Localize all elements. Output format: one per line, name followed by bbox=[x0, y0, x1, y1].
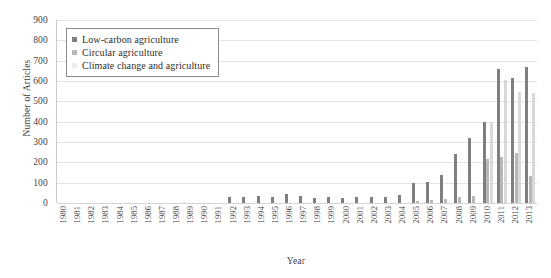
bar-group bbox=[325, 20, 339, 203]
bar-group bbox=[241, 20, 255, 203]
y-tick-label: 800 bbox=[0, 35, 48, 45]
x-tick: 1991 bbox=[211, 204, 225, 254]
x-tick-label: 1987 bbox=[157, 206, 167, 223]
bar bbox=[242, 197, 245, 203]
legend-item-label: Low-carbon agriculture bbox=[82, 34, 179, 45]
bar-group bbox=[495, 20, 509, 203]
x-tick: 1983 bbox=[98, 204, 112, 254]
bar-group bbox=[269, 20, 283, 203]
bar-group bbox=[340, 20, 354, 203]
x-tick-label: 1993 bbox=[242, 206, 252, 223]
bar-chart-figure: Number of Articles 900800700600500400300… bbox=[0, 0, 551, 278]
x-tick-label: 1989 bbox=[185, 206, 195, 223]
bar bbox=[532, 93, 535, 203]
x-tick-label: 1999 bbox=[326, 206, 336, 223]
x-tick: 1997 bbox=[296, 204, 310, 254]
x-tick: 1988 bbox=[169, 204, 183, 254]
x-tick-label: 1986 bbox=[143, 206, 153, 223]
bar bbox=[518, 92, 521, 203]
x-tick: 1996 bbox=[282, 204, 296, 254]
bar-group bbox=[424, 20, 438, 203]
x-tick-label: 1997 bbox=[298, 206, 308, 223]
x-tick: 2003 bbox=[381, 204, 395, 254]
x-tick: 1989 bbox=[183, 204, 197, 254]
bar bbox=[490, 122, 493, 203]
bar bbox=[515, 153, 518, 203]
x-tick: 1998 bbox=[310, 204, 324, 254]
bar-group bbox=[283, 20, 297, 203]
bar bbox=[299, 196, 302, 203]
bar-group bbox=[354, 20, 368, 203]
bar bbox=[504, 80, 507, 203]
x-tick-label: 1992 bbox=[228, 206, 238, 223]
x-tick: 2013 bbox=[522, 204, 536, 254]
x-tick: 1999 bbox=[324, 204, 338, 254]
bar bbox=[313, 198, 316, 203]
x-tick-label: 2007 bbox=[439, 206, 449, 223]
bar bbox=[384, 197, 387, 203]
x-tick-label: 1985 bbox=[129, 206, 139, 223]
x-tick: 2004 bbox=[395, 204, 409, 254]
bar bbox=[327, 197, 330, 203]
x-tick-label: 2002 bbox=[369, 206, 379, 223]
x-tick: 2006 bbox=[423, 204, 437, 254]
x-tick-label: 1984 bbox=[115, 206, 125, 223]
x-tick: 2009 bbox=[466, 204, 480, 254]
x-tick-label: 2011 bbox=[496, 206, 506, 223]
x-tick: 2002 bbox=[367, 204, 381, 254]
bar-group bbox=[368, 20, 382, 203]
bar bbox=[257, 196, 260, 203]
legend-item[interactable]: Circular agriculture bbox=[72, 46, 210, 59]
legend-item-label: Climate change and agriculture bbox=[82, 60, 210, 71]
bar bbox=[529, 176, 532, 203]
x-tick-label: 2005 bbox=[411, 206, 421, 223]
legend-swatch-icon bbox=[72, 37, 77, 42]
x-tick: 1980 bbox=[56, 204, 70, 254]
x-tick: 2005 bbox=[409, 204, 423, 254]
bar bbox=[444, 199, 447, 203]
bar bbox=[511, 78, 514, 203]
bar-group bbox=[438, 20, 452, 203]
legend-item[interactable]: Low-carbon agriculture bbox=[72, 33, 210, 46]
bar-group bbox=[382, 20, 396, 203]
x-tick-label: 1990 bbox=[199, 206, 209, 223]
x-tick-label: 1991 bbox=[213, 206, 223, 223]
legend-item[interactable]: Climate change and agriculture bbox=[72, 59, 210, 72]
x-tick: 2007 bbox=[437, 204, 451, 254]
bar bbox=[416, 201, 419, 203]
bar bbox=[271, 197, 274, 203]
x-tick-label: 1998 bbox=[312, 206, 322, 223]
chart-legend: Low-carbon agricultureCircular agricultu… bbox=[66, 28, 219, 77]
bar-group bbox=[523, 20, 537, 203]
bar bbox=[483, 122, 486, 203]
x-tick-label: 2000 bbox=[341, 206, 351, 223]
y-tick-label: 400 bbox=[0, 117, 48, 127]
bar bbox=[412, 183, 415, 203]
legend-swatch-icon bbox=[72, 50, 77, 55]
bar bbox=[355, 197, 358, 203]
x-tick-label: 2008 bbox=[454, 206, 464, 223]
x-tick: 1990 bbox=[197, 204, 211, 254]
y-tick-label: 500 bbox=[0, 96, 48, 106]
x-tick-label: 2013 bbox=[524, 206, 534, 223]
y-tick-label: 300 bbox=[0, 137, 48, 147]
bar bbox=[497, 69, 500, 203]
bar bbox=[341, 198, 344, 203]
x-tick-label: 2004 bbox=[397, 206, 407, 223]
x-tick-label: 2001 bbox=[355, 206, 365, 223]
y-tick-label: 100 bbox=[0, 178, 48, 188]
legend-swatch-icon bbox=[72, 63, 77, 68]
x-tick-label: 1983 bbox=[100, 206, 110, 223]
legend-item-label: Circular agriculture bbox=[82, 47, 163, 58]
bar bbox=[468, 138, 471, 203]
bar bbox=[500, 157, 503, 203]
bar bbox=[486, 159, 489, 203]
x-tick-label: 1980 bbox=[58, 206, 68, 223]
y-tick-label: 600 bbox=[0, 76, 48, 86]
bar-group bbox=[467, 20, 481, 203]
y-tick-label: 200 bbox=[0, 157, 48, 167]
bar bbox=[525, 67, 528, 203]
bar bbox=[454, 154, 457, 203]
bar-group bbox=[311, 20, 325, 203]
bar bbox=[472, 196, 475, 203]
